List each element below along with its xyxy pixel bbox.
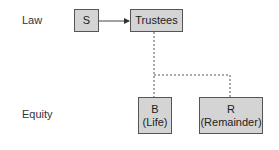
node-beneficiary-life-line2: (Life) <box>142 116 167 129</box>
node-remainder: R (Remainder) <box>199 97 263 134</box>
row-label-law: Law <box>22 14 42 26</box>
node-settlor-label: S <box>83 14 90 27</box>
node-trustees: Trustees <box>130 9 183 32</box>
node-remainder-line2: (Remainder) <box>200 116 261 129</box>
node-beneficiary-life-line1: B <box>151 103 158 116</box>
node-remainder-line1: R <box>227 103 235 116</box>
row-label-equity: Equity <box>22 108 53 120</box>
node-trustees-label: Trustees <box>135 14 177 27</box>
node-settlor: S <box>74 9 99 32</box>
node-beneficiary-life: B (Life) <box>138 97 172 134</box>
